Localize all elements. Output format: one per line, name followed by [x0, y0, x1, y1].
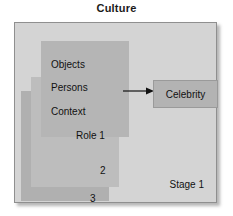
- label-context: Context: [51, 106, 85, 117]
- label-role-3: 3: [90, 193, 96, 204]
- figure-canvas: Culture Objects Persons Context Role 1 2…: [0, 0, 233, 216]
- label-objects: Objects: [51, 59, 85, 70]
- label-persons: Persons: [51, 82, 88, 93]
- celebrity-box: Celebrity: [153, 80, 218, 108]
- arrow-right-icon: [123, 85, 155, 97]
- label-role-2: 2: [100, 165, 106, 176]
- label-role-1: Role 1: [76, 130, 105, 141]
- culture-frame: Objects Persons Context Role 1 2 3 Celeb…: [14, 22, 217, 203]
- label-stage: Stage 1: [170, 179, 204, 190]
- figure-title: Culture: [0, 2, 233, 14]
- label-celebrity: Celebrity: [154, 81, 217, 107]
